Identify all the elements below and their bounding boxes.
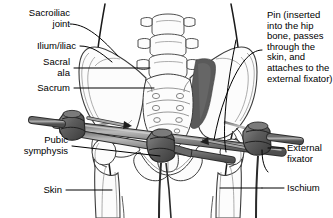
label-skin: Skin: [10, 185, 62, 196]
label-ilium-iliac: Ilium/iliac: [4, 41, 76, 52]
label-pin: Pin (inserted into the hip bone, passes …: [267, 10, 333, 84]
label-sacral-ala: Sacral ala: [8, 57, 70, 78]
label-pubic-symphysis: Pubic symphysis: [2, 135, 68, 156]
fixator-bar-left-stub: [32, 120, 62, 124]
label-external-fixator: External fixator: [287, 143, 333, 164]
label-sacroiliac-joint: Sacroiliac joint: [6, 8, 70, 29]
label-ischium: Ischium: [287, 183, 333, 194]
label-sacrum: Sacrum: [8, 83, 70, 94]
fixator-bar-right-stub: [270, 137, 300, 141]
medical-illustration-figure: Sacroiliac joint Ilium/iliac Sacral ala …: [0, 0, 333, 218]
